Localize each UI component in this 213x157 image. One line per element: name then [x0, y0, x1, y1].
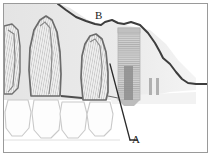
tooth-crown-4 — [87, 102, 113, 136]
tooth-root-3 — [81, 34, 108, 100]
implant-thread-mark-2 — [156, 78, 159, 95]
dental-radiograph-figure: A B — [0, 0, 213, 157]
tooth-crown-3 — [60, 102, 87, 138]
implant-collar — [118, 28, 140, 33]
tooth-crown-2 — [32, 100, 61, 138]
label-a: A — [132, 134, 140, 145]
tooth-root-1 — [4, 24, 20, 94]
figure-canvas — [0, 0, 213, 157]
tooth-crown-1 — [5, 100, 31, 136]
label-b: B — [95, 10, 102, 21]
implant-internal-channel — [124, 66, 133, 100]
implant-thread-mark-1 — [149, 78, 152, 95]
